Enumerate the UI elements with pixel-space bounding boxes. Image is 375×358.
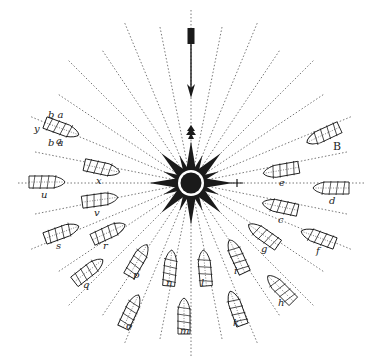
ship-label: x xyxy=(96,175,102,186)
ship-label: d xyxy=(329,195,335,206)
ship-icon xyxy=(83,158,121,179)
ship-label: g xyxy=(261,243,267,254)
ships-group: ab ab ayxuvsrqponmlikhgfcdeB xyxy=(29,109,349,336)
svg-text:b a: b a xyxy=(48,109,64,120)
ship-label: h xyxy=(278,297,284,308)
ship-label: B xyxy=(333,140,341,153)
ship-icon xyxy=(81,190,119,209)
diagram-canvas: ab ab ayxuvsrqponmlikhgfcdeB xyxy=(0,0,375,358)
ship-label: o xyxy=(126,320,132,331)
compass-ship-diagram: ab ab ayxuvsrqponmlikhgfcdeB xyxy=(0,0,375,358)
ship-icon xyxy=(29,175,65,189)
ship-label: m xyxy=(180,325,189,336)
ship-label: v xyxy=(94,207,100,218)
ship-label: f xyxy=(315,245,322,256)
ship-label: n xyxy=(166,277,172,288)
ship-label: l xyxy=(201,277,204,288)
compass-rose-icon xyxy=(149,125,243,225)
ship-label: k xyxy=(233,317,239,328)
svg-text:y: y xyxy=(33,123,40,134)
ship-label: q xyxy=(83,279,89,290)
ship-icon xyxy=(196,249,213,286)
ship-label: r xyxy=(103,240,109,251)
ship-label: u xyxy=(41,189,47,200)
ship-label: s xyxy=(56,240,61,251)
north-arrow-icon xyxy=(187,28,195,98)
svg-text:b a: b a xyxy=(48,137,64,148)
ship-icon xyxy=(90,218,129,246)
ship-label: c xyxy=(278,214,284,225)
ship-icon xyxy=(43,220,82,245)
ship-label: p xyxy=(133,269,140,280)
ship-label: e xyxy=(279,177,285,188)
ship-label: i xyxy=(234,265,237,276)
